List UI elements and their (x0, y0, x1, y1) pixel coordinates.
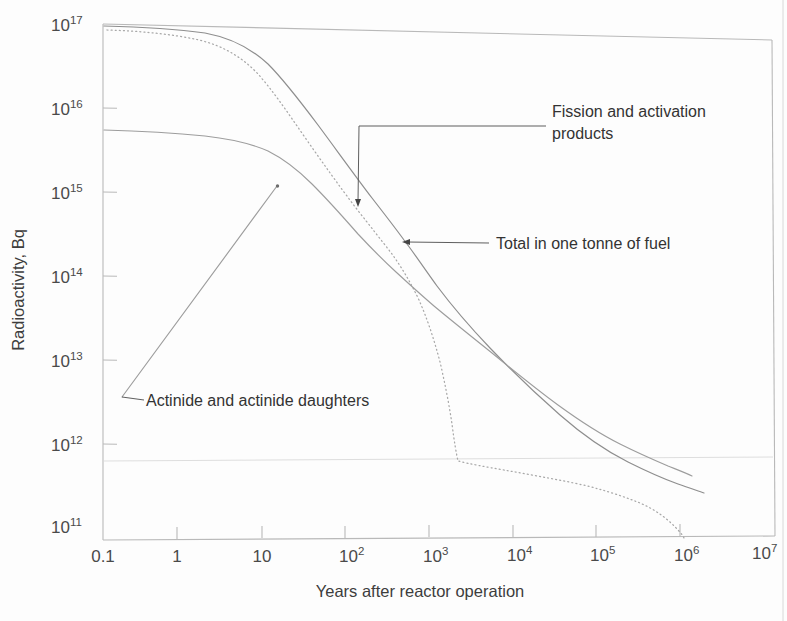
annotation-total-in-one-tonne: Total in one tonne of fuel (402, 235, 670, 252)
annotation-total-label: Total in one tonne of fuel (496, 235, 670, 252)
annotation-actinide-daughters: Actinide and actinide daughters (122, 392, 369, 409)
x-tick-label-10e3: 103 (423, 545, 448, 566)
annotation-fission-label-line1: Fission and activation (552, 103, 706, 120)
x-axis-title: Years after reactor operation (316, 582, 525, 600)
x-tick-label-10e6: 106 (674, 544, 699, 565)
y-tick-label-10e15: 1015 (51, 182, 83, 203)
radioactivity-decay-chart: 1017 1016 1015 1014 1013 1012 1011 (0, 0, 787, 621)
y-axis-title: Radioactivity, Bq (9, 229, 27, 351)
annotation-fission-label-line2: products (552, 125, 613, 142)
x-tick-label-1: 1 (172, 547, 181, 566)
x-tick-label-10e4: 104 (507, 544, 533, 565)
figure-container: 1017 1016 1015 1014 1013 1012 1011 (0, 0, 787, 621)
y-axis-ticks (103, 108, 117, 444)
x-tick-label-10e2: 102 (339, 545, 364, 566)
y-axis-tick-labels: 1017 1016 1015 1014 1013 1012 1011 (51, 14, 83, 537)
x-tick-label-0point1: 0.1 (91, 547, 115, 566)
x-tick-label-10e7: 107 (752, 542, 777, 563)
annotation-fission-activation-products: Fission and activation products (355, 103, 706, 207)
y-tick-label-10e14: 1014 (51, 266, 83, 287)
y-tick-label-10e17: 1017 (51, 14, 83, 35)
y-tick-label-10e16: 1016 (51, 98, 83, 119)
reference-level-line (104, 457, 773, 461)
curve-actinide-ingrowth-branch (122, 186, 277, 397)
plot-frame-top (103, 24, 772, 40)
y-tick-label-10e12: 1012 (51, 434, 83, 455)
x-tick-label-10: 10 (253, 547, 272, 566)
annotation-actinide-label: Actinide and actinide daughters (146, 392, 369, 409)
x-axis-tick-labels: 0.1 1 10 102 103 104 105 106 (91, 542, 777, 566)
y-tick-label-10e13: 1013 (51, 350, 83, 371)
curve-total-in-one-tonne (104, 26, 704, 493)
curve-actinide-decay-branch (104, 130, 692, 476)
plot-frame-right (772, 40, 775, 536)
actinide-peak-marker (276, 184, 279, 187)
y-tick-label-10e11: 1011 (51, 516, 82, 537)
x-tick-label-10e5: 105 (590, 544, 615, 565)
plot-frame-bottom-axis (103, 536, 775, 540)
